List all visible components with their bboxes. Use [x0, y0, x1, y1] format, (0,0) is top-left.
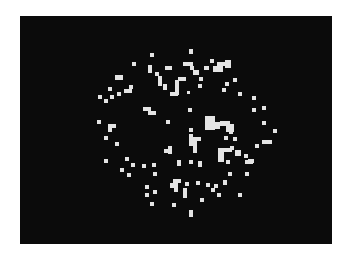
live-cell[interactable] — [198, 161, 202, 167]
live-cell[interactable] — [223, 180, 227, 185]
live-cell[interactable] — [252, 96, 256, 100]
live-cell[interactable] — [185, 182, 189, 186]
live-cell[interactable] — [204, 66, 209, 70]
live-cell[interactable] — [205, 116, 215, 130]
live-cell[interactable] — [200, 198, 204, 202]
live-cell[interactable] — [213, 66, 223, 72]
live-cell[interactable] — [187, 91, 190, 94]
live-cell[interactable] — [177, 160, 181, 166]
live-cell[interactable] — [127, 173, 131, 177]
live-cell[interactable] — [152, 163, 156, 167]
live-cell[interactable] — [125, 157, 129, 161]
live-cell[interactable] — [131, 163, 135, 167]
live-cell[interactable] — [124, 89, 132, 93]
live-cell[interactable] — [110, 95, 114, 99]
live-cell[interactable] — [115, 75, 123, 80]
live-cell[interactable] — [120, 168, 124, 172]
live-cell[interactable] — [211, 188, 215, 192]
live-cell[interactable] — [129, 85, 133, 89]
live-cell[interactable] — [210, 59, 214, 63]
live-cell[interactable] — [217, 193, 221, 197]
live-cell[interactable] — [112, 124, 116, 128]
live-cell[interactable] — [225, 82, 229, 86]
live-cell[interactable] — [153, 190, 157, 194]
live-cell[interactable] — [193, 70, 199, 75]
live-cell[interactable] — [153, 172, 157, 176]
live-cell[interactable] — [252, 108, 256, 112]
live-cell[interactable] — [132, 62, 136, 66]
live-cell[interactable] — [262, 106, 266, 110]
live-cell[interactable] — [117, 92, 121, 96]
live-cell[interactable] — [189, 128, 193, 132]
live-cell[interactable] — [222, 88, 226, 92]
live-cell[interactable] — [148, 65, 152, 73]
live-cell[interactable] — [104, 136, 108, 140]
live-cell[interactable] — [245, 172, 249, 176]
live-cell[interactable] — [238, 193, 242, 197]
live-cell[interactable] — [196, 181, 200, 185]
live-cell[interactable] — [142, 164, 146, 168]
live-cell[interactable] — [235, 150, 241, 156]
live-cell[interactable] — [255, 144, 259, 148]
live-cell[interactable] — [104, 99, 108, 103]
live-cell[interactable] — [229, 130, 233, 134]
live-cell[interactable] — [158, 76, 162, 86]
live-cell[interactable] — [189, 49, 193, 54]
live-cell[interactable] — [244, 154, 248, 158]
live-cell[interactable] — [206, 183, 210, 187]
live-cell[interactable] — [145, 193, 149, 197]
live-cell[interactable] — [104, 159, 108, 163]
live-cell[interactable] — [226, 160, 230, 164]
live-cell[interactable] — [245, 160, 253, 164]
live-cell[interactable] — [230, 146, 234, 150]
live-cell[interactable] — [189, 210, 193, 217]
live-cell[interactable] — [148, 111, 156, 115]
live-cell[interactable] — [183, 192, 187, 198]
live-cell[interactable] — [218, 152, 224, 162]
live-cell[interactable] — [163, 84, 167, 90]
live-cell[interactable] — [175, 80, 179, 95]
live-cell[interactable] — [189, 160, 193, 164]
live-cell[interactable] — [197, 137, 201, 141]
live-cell[interactable] — [172, 203, 176, 207]
live-cell[interactable] — [262, 121, 266, 125]
live-cell[interactable] — [166, 120, 170, 124]
live-cell[interactable] — [150, 202, 154, 206]
live-cell[interactable] — [178, 77, 186, 81]
live-cell[interactable] — [199, 77, 203, 81]
live-cell[interactable] — [145, 185, 149, 189]
live-cell[interactable] — [233, 78, 237, 82]
live-cell[interactable] — [273, 129, 277, 133]
live-cell[interactable] — [262, 140, 272, 144]
live-cell[interactable] — [233, 137, 237, 141]
live-cell[interactable] — [188, 108, 192, 112]
live-cell[interactable] — [150, 53, 154, 57]
live-cell[interactable] — [115, 142, 119, 146]
live-cell[interactable] — [97, 120, 101, 124]
live-cell[interactable] — [165, 66, 172, 70]
live-cell[interactable] — [225, 60, 231, 68]
live-cell[interactable] — [108, 87, 112, 91]
live-cell[interactable] — [238, 92, 242, 96]
game-board[interactable] — [20, 16, 332, 244]
live-cell[interactable] — [98, 95, 102, 99]
live-cell[interactable] — [168, 146, 172, 154]
live-cell[interactable] — [224, 136, 228, 140]
live-cell[interactable] — [228, 172, 232, 176]
live-cell[interactable] — [198, 84, 202, 88]
live-cell[interactable] — [174, 188, 178, 192]
